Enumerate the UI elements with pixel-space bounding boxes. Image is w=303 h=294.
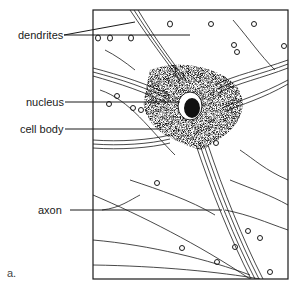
tissue-background	[93, 10, 288, 279]
dendrites-leader-1	[64, 22, 135, 35]
axon-label: axon	[38, 204, 62, 216]
nucleus-label: nucleus	[26, 96, 64, 108]
cell-body-label: cell body	[20, 123, 63, 135]
nucleus-core	[184, 98, 200, 118]
panel-label: a.	[7, 267, 16, 279]
neuron-illustration	[0, 0, 303, 294]
dendrites-label: dendrites	[18, 29, 63, 41]
